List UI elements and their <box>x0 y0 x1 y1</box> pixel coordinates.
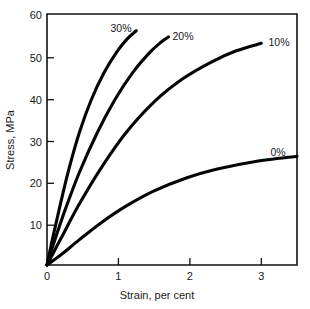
series-label-30-percent: 30% <box>110 22 131 34</box>
x-tick-label-2: 2 <box>187 270 193 282</box>
y-axis-tick-labels: 60 50 40 30 20 10 <box>30 9 42 232</box>
series-label-10-percent: 10% <box>268 36 289 48</box>
y-axis-title: Stress, MPa <box>4 109 16 170</box>
series-label-20-percent: 20% <box>172 30 193 42</box>
curve-10-percent <box>47 43 261 265</box>
series-labels: 30% 20% 10% 0% <box>110 22 289 158</box>
y-tick-label-20: 20 <box>30 177 42 189</box>
plot-frame <box>47 14 297 265</box>
data-curves <box>47 31 297 265</box>
stress-strain-chart-figure: 60 50 40 30 20 10 0 1 2 3 Strain, per ce… <box>0 0 310 309</box>
x-axis-ticks <box>118 258 261 265</box>
y-tick-label-60: 60 <box>30 9 42 21</box>
y-tick-label-50: 50 <box>30 52 42 64</box>
x-tick-label-3: 3 <box>258 270 264 282</box>
chart-canvas: 60 50 40 30 20 10 0 1 2 3 Strain, per ce… <box>0 0 310 309</box>
x-axis-title: Strain, per cent <box>120 289 195 301</box>
curve-0-percent <box>47 156 297 265</box>
plot-border <box>47 14 297 265</box>
y-tick-label-10: 10 <box>30 219 42 231</box>
x-tick-label-1: 1 <box>115 270 121 282</box>
x-tick-label-0: 0 <box>44 270 50 282</box>
y-tick-label-40: 40 <box>30 94 42 106</box>
series-label-0-percent: 0% <box>270 146 285 158</box>
y-axis-ticks <box>47 58 54 225</box>
y-tick-label-30: 30 <box>30 136 42 148</box>
x-axis-tick-labels: 0 1 2 3 <box>44 270 264 282</box>
